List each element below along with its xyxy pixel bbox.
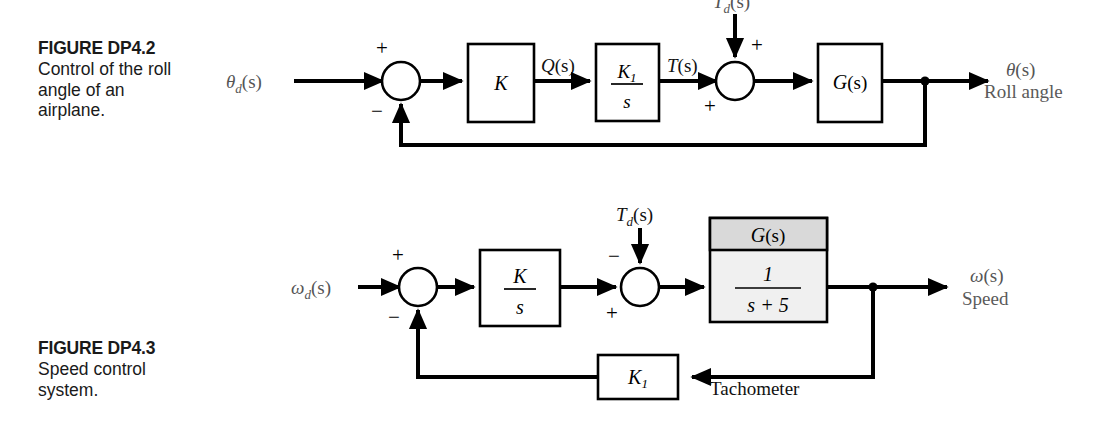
sign-plus-input-2: +	[392, 243, 404, 267]
block-integrator-denominator: s	[623, 91, 630, 112]
sign-plus-input-1: +	[376, 36, 388, 60]
block-diagrams-canvas: θd(s) + − K Q(s) K1	[0, 0, 1115, 422]
diagram-dp4-3: ωd(s) + − K s Td(s) − +	[291, 204, 1009, 399]
block-plant-g-s-2-title: G(s)	[751, 224, 786, 247]
sign-minus-feedback-1: −	[371, 99, 383, 123]
figure-page: FIGURE DP4.2 Control of the roll angle o…	[0, 0, 1115, 422]
signal-label-t-s: T(s)	[667, 55, 698, 77]
block-gain-k-label: K	[493, 72, 509, 94]
signal-t-paren: (s)	[678, 55, 698, 77]
block-plant-g-s-1-label: G(s)	[833, 71, 868, 94]
sign-plus-disturbance-1: +	[751, 33, 763, 57]
output-paren-1: (s)	[1015, 59, 1035, 81]
output-description-roll-angle: Roll angle	[984, 81, 1063, 102]
block-plant-denominator-2: s + 5	[747, 294, 788, 316]
sign-minus-disturbance-2: −	[608, 244, 620, 268]
summing-junction-error-2	[399, 268, 437, 306]
input-label-omega-d: ωd(s)	[291, 277, 331, 302]
output-label-omega-s: ω(s)	[970, 265, 1003, 287]
sign-plus-forward-2: +	[606, 301, 618, 325]
output-base-2: ω	[970, 265, 983, 286]
block-controller-denominator: s	[516, 296, 524, 318]
output-label-theta-s: θ(s)	[1006, 59, 1035, 81]
block-controller-numerator: K	[512, 265, 528, 287]
sign-plus-forward-1: +	[704, 94, 716, 118]
signal-q-paren: (s)	[555, 55, 575, 77]
disturbance-paren-1: (s)	[730, 0, 750, 13]
block-plant-numerator-2: 1	[763, 263, 773, 285]
disturbance-label-td-2: Td(s)	[616, 204, 653, 229]
input-label-paren: (s)	[242, 71, 262, 93]
input-label-theta-d: θd(s)	[226, 71, 262, 96]
signal-label-q-s: Q(s)	[541, 55, 575, 77]
summing-junction-disturbance-2	[621, 268, 659, 306]
sign-minus-feedback-2: −	[388, 305, 400, 329]
signal-q-base: Q	[541, 55, 555, 76]
summing-junction-disturbance-1	[716, 62, 754, 100]
input-label-base: θ	[226, 71, 235, 92]
summing-junction-error-1	[382, 62, 420, 100]
output-base-1: θ	[1006, 59, 1015, 80]
disturbance-paren-2: (s)	[633, 204, 653, 226]
disturbance-label-td-1: Td(s)	[713, 0, 750, 16]
output-description-speed: Speed	[962, 288, 1009, 309]
output-paren-2: (s)	[983, 265, 1003, 287]
input-label-base-2: ω	[291, 277, 304, 298]
feedback-label-tachometer: Tachometer	[710, 378, 800, 399]
diagram-dp4-2: θd(s) + − K Q(s) K1	[226, 0, 1063, 145]
input-label-paren-2: (s)	[311, 277, 331, 299]
